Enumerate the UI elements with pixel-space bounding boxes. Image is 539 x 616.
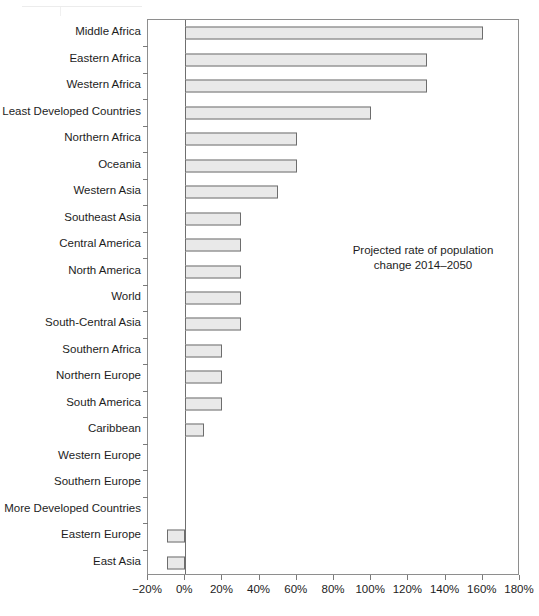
y-axis-tick — [143, 523, 148, 524]
annotation-line-2: change 2014–2050 — [330, 258, 516, 273]
x-axis-tick — [147, 575, 148, 580]
y-axis-category-labels: Middle AfricaEastern AfricaWestern Afric… — [0, 19, 141, 575]
x-axis-tick-label: 0% — [176, 583, 193, 595]
bar — [185, 265, 241, 278]
bar — [167, 556, 186, 569]
figure: Middle AfricaEastern AfricaWestern Afric… — [0, 0, 539, 616]
bar — [185, 80, 427, 93]
y-axis-label: Western Asia — [0, 185, 141, 197]
y-axis-label: Eastern Africa — [0, 53, 141, 65]
y-axis-label: East Asia — [0, 556, 141, 568]
y-axis-tick — [143, 152, 148, 153]
y-axis-tick — [143, 46, 148, 47]
bar — [185, 27, 483, 40]
y-axis-label: Southern Europe — [0, 477, 141, 489]
scan-artifact — [22, 6, 142, 7]
x-axis-tick-label: 20% — [210, 583, 233, 595]
x-axis-tick — [482, 575, 483, 580]
y-axis-label: Northern Europe — [0, 371, 141, 383]
bar — [185, 318, 241, 331]
scan-artifact-tick — [60, 7, 61, 16]
y-axis-tick — [143, 364, 148, 365]
y-axis-label: Middle Africa — [0, 26, 141, 38]
x-axis-tick-label: 180% — [504, 583, 533, 595]
y-axis-label: Caribbean — [0, 424, 141, 436]
y-axis-tick — [143, 311, 148, 312]
x-axis-tick-label: 160% — [467, 583, 496, 595]
y-axis-tick — [143, 417, 148, 418]
y-axis-tick — [143, 391, 148, 392]
x-axis-tick — [445, 575, 446, 580]
y-axis-label: Eastern Europe — [0, 530, 141, 542]
chart-annotation: Projected rate of population change 2014… — [330, 243, 516, 273]
x-axis-tick — [519, 575, 520, 580]
y-axis-label: Western Europe — [0, 450, 141, 462]
y-axis-tick — [143, 73, 148, 74]
y-axis-tick — [143, 258, 148, 259]
x-axis-tick-label: 100% — [355, 583, 384, 595]
x-axis-tick-label: 140% — [430, 583, 459, 595]
y-axis-label: South-Central Asia — [0, 318, 141, 330]
bar — [185, 159, 297, 172]
y-axis-label: North America — [0, 265, 141, 277]
y-axis-tick — [143, 444, 148, 445]
y-axis-label: Southeast Asia — [0, 212, 141, 224]
x-axis-tick-label: −20% — [132, 583, 162, 595]
y-axis-label: More Developed Countries — [0, 503, 141, 515]
plot-area — [147, 19, 519, 575]
y-axis-tick — [143, 285, 148, 286]
bar — [185, 292, 241, 305]
y-axis-tick — [143, 338, 148, 339]
x-axis-tick-label: 80% — [321, 583, 344, 595]
y-axis-tick — [143, 550, 148, 551]
y-axis-label: South America — [0, 397, 141, 409]
y-axis-tick — [143, 179, 148, 180]
x-axis-tick — [259, 575, 260, 580]
y-axis-label: Central America — [0, 238, 141, 250]
bar — [185, 344, 222, 357]
bar — [185, 53, 427, 66]
y-axis-label: Oceania — [0, 159, 141, 171]
x-axis-tick — [221, 575, 222, 580]
y-axis-label: Southern Africa — [0, 344, 141, 356]
x-axis-tick — [333, 575, 334, 580]
y-axis-label: Western Africa — [0, 79, 141, 91]
x-axis-tick — [296, 575, 297, 580]
y-axis-label: Least Developed Countries — [0, 106, 141, 118]
y-axis-tick — [143, 205, 148, 206]
bar — [185, 133, 297, 146]
bar — [185, 424, 204, 437]
annotation-line-1: Projected rate of population — [330, 243, 516, 258]
bar — [185, 397, 222, 410]
x-axis-tick-label: 40% — [247, 583, 270, 595]
bar — [185, 212, 241, 225]
x-axis-tick-label: 120% — [393, 583, 422, 595]
y-axis-tick — [143, 470, 148, 471]
bar — [185, 186, 278, 199]
y-axis-tick — [143, 497, 148, 498]
bar — [185, 239, 241, 252]
x-axis-tick — [184, 575, 185, 580]
y-axis-label: Northern Africa — [0, 132, 141, 144]
bar — [185, 371, 222, 384]
y-axis-tick — [143, 126, 148, 127]
y-axis-tick — [143, 99, 148, 100]
bar — [185, 106, 371, 119]
x-axis-tick — [370, 575, 371, 580]
x-axis-tick — [407, 575, 408, 580]
bar — [167, 530, 186, 543]
y-axis-label: World — [0, 291, 141, 303]
x-axis-tick-label: 60% — [284, 583, 307, 595]
y-axis-tick — [143, 232, 148, 233]
